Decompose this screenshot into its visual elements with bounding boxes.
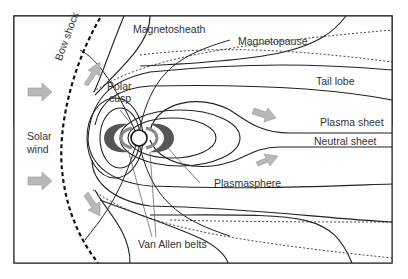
label-neutral-sheet: Neutral sheet bbox=[314, 135, 376, 147]
label-polar-cusp-2: cusp bbox=[109, 92, 131, 104]
label-plasma-sheet: Plasma sheet bbox=[320, 116, 384, 128]
earth bbox=[131, 130, 147, 146]
label-tail-lobe: Tail lobe bbox=[316, 75, 355, 87]
label-polar-cusp-1: Polar bbox=[107, 80, 132, 92]
label-plasmasphere: Plasmasphere bbox=[214, 177, 281, 189]
label-magnetosheath: Magnetosheath bbox=[133, 23, 205, 35]
label-solar-wind-2: wind bbox=[27, 143, 49, 155]
label-solar-wind-1: Solar bbox=[27, 130, 52, 142]
label-magnetopause: Magnetopause bbox=[238, 35, 307, 47]
label-van-allen-belts: Van Allen belts bbox=[138, 238, 207, 250]
